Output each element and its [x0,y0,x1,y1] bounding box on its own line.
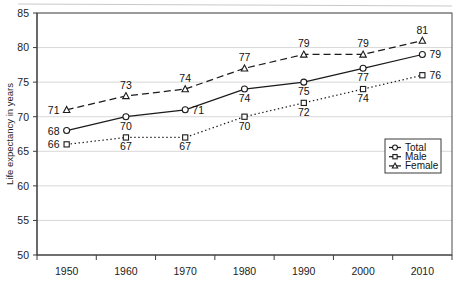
data-value-label: 71 [192,104,204,116]
data-value-label: 73 [120,79,132,91]
x-axis-ticks: 1950196019701980199020002010 [37,255,452,277]
data-value-label: 70 [120,120,132,132]
x-tick-label: 1980 [233,265,257,277]
life-expectancy-chart: 5055606570758085 19501960197019801990200… [0,0,470,283]
y-tick-label: 80 [17,41,29,53]
chart-canvas: 5055606570758085 19501960197019801990200… [0,0,470,283]
x-tick-label: 2010 [411,265,435,277]
y-tick-label: 55 [17,214,29,226]
data-point-marker [241,65,247,71]
data-value-label: 67 [179,140,191,152]
data-value-label: 77 [239,51,251,63]
legend-label-female: Female [405,160,439,171]
data-point-marker [360,86,365,91]
data-value-label: 77 [357,71,369,83]
data-value-label: 79 [357,37,369,49]
data-value-label: 66 [48,138,60,150]
chart-legend[interactable]: TotalMaleFemale [385,139,441,173]
series-male [64,73,425,147]
data-point-marker [64,142,69,147]
data-point-marker [242,114,247,119]
y-tick-label: 65 [17,145,29,157]
data-point-marker [419,51,425,57]
data-value-label: 75 [298,85,310,97]
x-tick-label: 1970 [174,265,198,277]
x-tick-label: 2000 [351,265,375,277]
data-point-marker [393,155,397,159]
y-axis-title-text: Life expectancy in years [4,83,15,185]
y-tick-label: 70 [17,111,29,123]
data-value-label: 70 [239,120,251,132]
data-value-label: 76 [430,69,442,81]
x-tick-label: 1950 [55,265,79,277]
data-value-label: 67 [120,140,132,152]
data-value-label: 79 [430,48,442,60]
data-point-marker [123,135,128,140]
data-value-label: 74 [357,92,369,104]
x-tick-label: 1990 [292,265,316,277]
data-point-marker [393,145,398,150]
plot-frame [37,13,452,255]
data-value-label: 72 [298,106,310,118]
data-point-marker [182,107,188,113]
data-point-marker [419,37,425,43]
data-value-label: 71 [48,104,60,116]
data-point-marker [123,93,129,99]
data-point-marker [420,73,425,78]
y-axis-ticks: 5055606570758085 [17,7,37,261]
y-tick-label: 50 [17,249,29,261]
y-axis-title: Life expectancy in years [4,83,15,185]
data-value-label: 68 [48,125,60,137]
data-point-marker [301,100,306,105]
scan-artifact-line [18,4,452,6]
y-tick-label: 60 [17,180,29,192]
data-point-marker [183,135,188,140]
y-tick-label: 85 [17,7,29,19]
data-value-label: 74 [239,92,251,104]
x-tick-label: 1960 [114,265,138,277]
data-value-label: 81 [417,24,429,36]
y-tick-label: 75 [17,76,29,88]
data-value-label: 74 [179,72,191,84]
data-value-label: 79 [298,37,310,49]
data-point-marker [64,128,70,134]
